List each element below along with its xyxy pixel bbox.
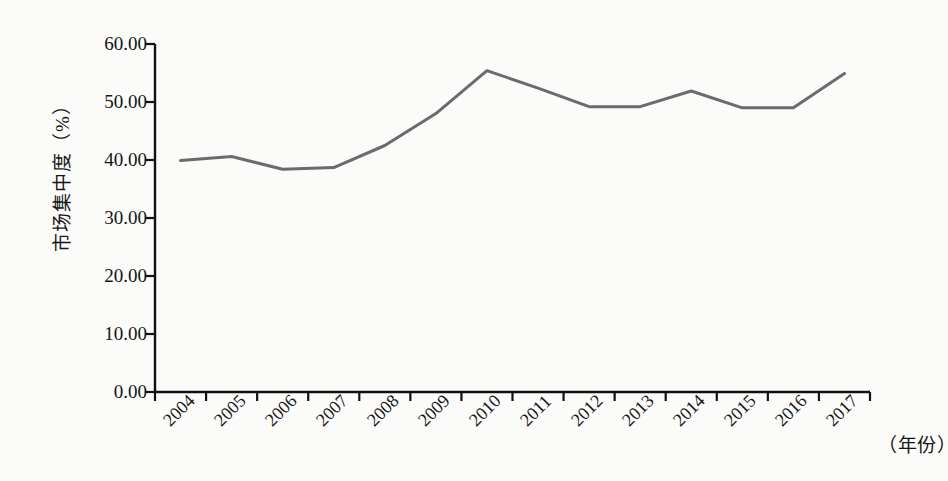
axes <box>146 44 870 401</box>
series-line-0 <box>181 71 845 170</box>
data-series-group <box>181 71 845 170</box>
